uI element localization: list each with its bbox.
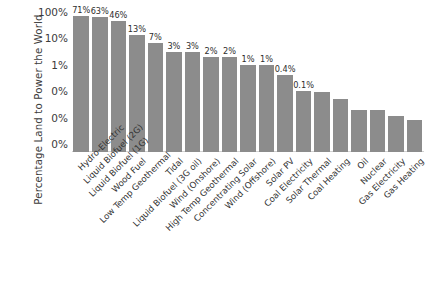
bar-slot[interactable]: 0.4% [276, 12, 295, 152]
bar-value-label: 1% [260, 54, 273, 64]
bar-slot[interactable]: 2% [202, 12, 221, 152]
y-axis-tick-0: 100% [32, 6, 68, 18]
y-axis-tick-5: 0% [32, 138, 68, 150]
bar-value-label: 0.4% [275, 64, 296, 74]
bar-slot[interactable]: 3% [183, 12, 202, 152]
bar[interactable] [333, 99, 349, 152]
bar-slot[interactable] [350, 12, 369, 152]
x-axis-tick-labels: Hydro-ElectricLiquid Biofuel (2G)Liquid … [72, 152, 424, 302]
bar[interactable] [314, 92, 330, 152]
bar-value-label: 2% [204, 46, 217, 56]
bar-slot[interactable]: 63% [91, 12, 110, 152]
bar[interactable] [166, 52, 182, 152]
y-axis-tick-labels: 100%10%1%0%0%0% [32, 12, 68, 152]
bar[interactable] [277, 75, 293, 152]
plot-area: 71%63%46%13%7%3%3%2%2%1%1%0.4%0.1% [72, 12, 424, 152]
bar-slot[interactable] [331, 12, 350, 152]
y-axis-tick-1: 10% [32, 32, 68, 44]
bar[interactable] [222, 57, 238, 152]
bar[interactable] [370, 110, 386, 152]
bar-value-label: 3% [186, 41, 199, 51]
bar-slot[interactable] [387, 12, 406, 152]
bar-value-label: 2% [223, 46, 236, 56]
bar-value-label: 46% [109, 10, 127, 20]
bar[interactable] [92, 17, 108, 152]
bar[interactable] [296, 91, 312, 152]
bar-slot[interactable] [405, 12, 424, 152]
y-axis-tick-3: 0% [32, 85, 68, 97]
bar-value-label: 1% [241, 54, 254, 64]
bar[interactable] [203, 57, 219, 152]
bar-value-label: 3% [167, 41, 180, 51]
bar[interactable] [407, 120, 423, 152]
bar-value-label: 13% [128, 24, 146, 34]
bar-value-label: 63% [91, 6, 109, 16]
bar[interactable] [73, 16, 89, 152]
y-axis-tick-4: 0% [32, 112, 68, 124]
bar[interactable] [388, 116, 404, 152]
bar-slot[interactable] [368, 12, 387, 152]
bar[interactable] [351, 110, 367, 152]
bar-slot[interactable]: 3% [165, 12, 184, 152]
bar[interactable] [259, 65, 275, 152]
bar-value-label: 0.1% [293, 80, 314, 90]
bar-slot[interactable]: 1% [257, 12, 276, 152]
bar-slot[interactable] [313, 12, 332, 152]
bar-slot[interactable]: 7% [146, 12, 165, 152]
bar-slot[interactable]: 1% [239, 12, 258, 152]
y-axis-tick-2: 1% [32, 59, 68, 71]
bar-value-label: 7% [149, 32, 162, 42]
bar-value-label: 71% [72, 5, 90, 15]
bar-chart: Percentage Land to Power the World 100%1… [0, 0, 428, 304]
bar[interactable] [148, 43, 164, 152]
bar[interactable] [240, 65, 256, 152]
bar-slot[interactable]: 0.1% [294, 12, 313, 152]
bar-slot[interactable]: 71% [72, 12, 91, 152]
bar[interactable] [185, 52, 201, 152]
bar-slot[interactable]: 2% [220, 12, 239, 152]
